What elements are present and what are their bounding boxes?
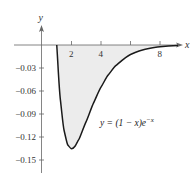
x-tick-label-2: 2 <box>69 49 74 59</box>
x-tick-label-8: 8 <box>158 49 163 59</box>
y-tick-label-0.12: −0.12 <box>15 132 36 142</box>
shaded-area <box>57 45 178 149</box>
y-tick-label-0.09: −0.09 <box>15 109 36 119</box>
x-ticks <box>72 41 161 45</box>
y-tick-label-0.15: −0.15 <box>15 155 36 165</box>
x-axis-label: x <box>184 39 190 50</box>
y-tick-label-0.06: −0.06 <box>15 86 36 96</box>
chart: x y 2 4 8 −0.03 −0.06 −0.09 −0.12 −0.15 … <box>0 0 192 180</box>
x-tick-label-4: 4 <box>99 49 104 59</box>
y-tick-label-0.03: −0.03 <box>15 63 36 73</box>
y-axis-label: y <box>38 12 44 23</box>
equation-label: y = (1 − x)e−x <box>99 116 155 129</box>
